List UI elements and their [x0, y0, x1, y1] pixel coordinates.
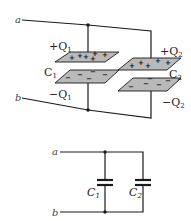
- plus-sign: +: [69, 54, 75, 62]
- plus-sign: +: [165, 59, 171, 67]
- minus-sign: −: [147, 75, 153, 83]
- terminal-b-label: b: [15, 92, 21, 103]
- plus-sign: +: [90, 55, 96, 63]
- c2-schematic-label: C2: [129, 186, 142, 200]
- c2-top-charge-label: +Q2: [160, 45, 183, 59]
- pictorial-circuit: a + + + + + + − − − − − + + +: [15, 14, 185, 118]
- junction-b: [86, 108, 90, 112]
- plus-sign: +: [129, 62, 135, 70]
- c1-top-charge-label: +Q1: [49, 40, 72, 54]
- c1-bottom-charge-label: −Q1: [49, 88, 72, 102]
- minus-sign: −: [156, 81, 162, 89]
- c2-label: C2: [169, 68, 182, 82]
- plus-sign: +: [145, 62, 151, 70]
- minus-sign: −: [86, 75, 92, 83]
- schematic-wire-a: [60, 152, 143, 180]
- c1-label: C1: [44, 66, 57, 80]
- schematic-circuit: a b C1 C2: [52, 146, 151, 218]
- terminal-a-label: a: [15, 14, 21, 25]
- parallel-capacitor-diagram: a + + + + + + − − − − − + + +: [0, 0, 191, 221]
- c2-bottom-charge-label: −Q2: [162, 96, 185, 110]
- minus-sign: −: [128, 83, 134, 91]
- wire-b: [22, 91, 151, 118]
- minus-sign: −: [77, 71, 83, 79]
- schematic-terminal-a-label: a: [52, 146, 58, 157]
- plus-sign: +: [155, 57, 161, 65]
- c1-schematic-label: C1: [87, 186, 100, 200]
- minus-sign: −: [102, 71, 108, 79]
- schematic-terminal-b-label: b: [52, 207, 58, 218]
- schematic-junction-b: [103, 210, 106, 213]
- plus-sign: +: [102, 51, 108, 59]
- plus-sign: +: [83, 53, 89, 61]
- plus-sign: +: [138, 59, 144, 67]
- minus-sign: −: [65, 74, 71, 82]
